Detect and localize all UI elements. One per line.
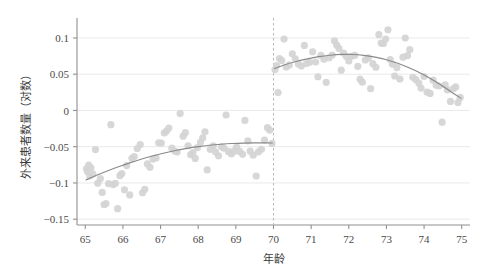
y-tick-label-2: 0 xyxy=(64,105,70,117)
scatter-point xyxy=(177,110,184,117)
scatter-point xyxy=(239,151,246,158)
y-tick-labels: 0.10.050−0.05−0.1−0.15 xyxy=(44,32,70,225)
scatter-point xyxy=(439,119,446,126)
scatter-point xyxy=(359,79,366,86)
y-tick-label-4: −0.1 xyxy=(49,177,69,189)
fit-left-quadratic-fit xyxy=(86,143,272,180)
scatter-point xyxy=(301,42,308,49)
x-tick-label-65: 65 xyxy=(80,233,92,245)
scatter-point xyxy=(447,98,454,105)
scatter-point xyxy=(141,186,148,193)
scatter-point xyxy=(280,35,287,42)
scatter-point xyxy=(114,205,121,212)
scatter-point xyxy=(215,152,222,159)
x-tick-label-72: 72 xyxy=(343,233,354,245)
chart-canvas: 6566676869707172737475 0.10.050−0.05−0.1… xyxy=(0,0,498,279)
x-tick-label-70: 70 xyxy=(268,233,280,245)
x-tick-label-73: 73 xyxy=(381,233,393,245)
scatter-point xyxy=(253,172,260,179)
scatter-point xyxy=(204,166,211,173)
scatter-point xyxy=(121,186,128,193)
scatter-point xyxy=(452,83,459,90)
scatter-point xyxy=(99,189,106,196)
x-tick-label-68: 68 xyxy=(193,233,205,245)
scatter-point xyxy=(393,64,400,71)
y-tick-label-1: 0.05 xyxy=(50,68,70,80)
y-tick-label-5: −0.15 xyxy=(44,213,70,225)
scatter-point xyxy=(367,85,374,92)
scatter-point xyxy=(241,117,248,124)
scatter-point xyxy=(351,52,358,59)
scatter-point xyxy=(278,57,285,64)
scatter-point xyxy=(258,146,265,153)
scatter-point xyxy=(406,46,413,53)
scatter-point xyxy=(338,67,345,74)
scatter-point xyxy=(309,48,316,55)
scatter-point xyxy=(92,146,99,153)
x-tick-label-71: 71 xyxy=(306,233,317,245)
series-left-bin-means xyxy=(83,110,276,212)
scatter-point xyxy=(126,191,133,198)
y-tick-label-3: −0.05 xyxy=(44,141,70,153)
x-axis-title: 年龄 xyxy=(263,252,285,265)
scatter-point xyxy=(323,79,330,86)
scatter-point xyxy=(118,170,125,177)
scatter-point xyxy=(107,121,114,128)
scatter-point xyxy=(372,64,379,71)
scatter-point xyxy=(266,126,273,133)
y-tick-label-0: 0.1 xyxy=(55,32,69,44)
scatter-point xyxy=(112,180,119,187)
scatter-point xyxy=(314,73,321,80)
scatter-point xyxy=(312,58,319,65)
scatter-point xyxy=(384,26,391,33)
x-tick-label-74: 74 xyxy=(419,233,431,245)
scatter-point xyxy=(97,175,104,182)
scatter-point xyxy=(146,164,153,171)
x-tick-label-66: 66 xyxy=(117,233,129,245)
scatter-point xyxy=(192,155,199,162)
x-tick-label-75: 75 xyxy=(456,233,468,245)
scatter-point xyxy=(402,34,409,41)
x-tick-label-67: 67 xyxy=(155,233,167,245)
scatter-point xyxy=(137,141,144,148)
scatter-point xyxy=(354,63,361,70)
scatter-point xyxy=(375,31,382,38)
scatter-point xyxy=(102,200,109,207)
scatter-point xyxy=(396,75,403,82)
scatter-point xyxy=(182,129,189,136)
scatter-point xyxy=(274,89,281,96)
rdd-scatter-chart: 6566676869707172737475 0.10.050−0.05−0.1… xyxy=(0,0,498,279)
x-tick-labels: 6566676869707172737475 xyxy=(80,233,468,245)
scatter-point xyxy=(131,153,138,160)
scatter-point xyxy=(417,85,424,92)
scatter-point xyxy=(382,35,389,42)
y-axis-title: 外来患者数量（对数） xyxy=(19,69,32,179)
scatter-point xyxy=(222,111,229,118)
x-tick-label-69: 69 xyxy=(230,233,242,245)
scatter-point xyxy=(165,124,172,131)
scatter-point xyxy=(158,139,165,146)
scatter-point xyxy=(427,90,434,97)
scatter-point xyxy=(201,128,208,135)
